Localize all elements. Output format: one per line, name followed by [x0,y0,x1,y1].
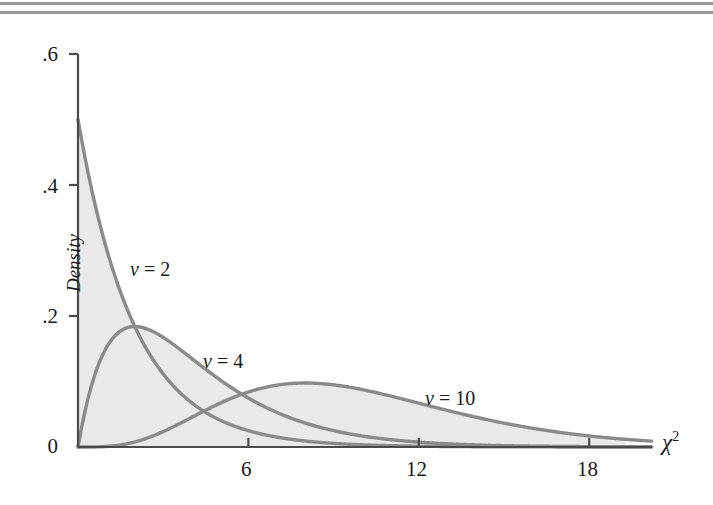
x-tick-label-12: 12 [406,457,427,482]
figure-page: Density χ2 0 .2 .4 .6 6 12 18 v = 2 v = … [0,0,713,505]
y-axis-label: Density [63,203,85,323]
chi-square-density-chart: Density χ2 0 .2 .4 .6 6 12 18 v = 2 v = … [0,20,713,505]
y-tick-label-0: 0 [18,434,58,459]
shaded-region [78,120,652,448]
chart-plot-area [0,20,713,505]
x-axis-label-exponent: 2 [672,429,679,444]
y-tick-label-0.2: .2 [18,304,58,329]
shaded-area-group [78,120,652,448]
y-tick-label-0.4: .4 [18,174,58,199]
curve-annotation-v10: v = 10 [425,387,475,410]
curve-annotation-v2: v = 2 [130,258,170,281]
x-axis-label: χ2 [662,429,679,456]
x-axis-label-base: χ [662,430,672,455]
x-tick-label-6: 6 [241,457,252,482]
y-tick-label-0.6: .6 [18,42,58,67]
bottom-rule-line [0,11,713,14]
top-rule-line [0,2,713,5]
curve-annotation-v4: v = 4 [203,350,243,373]
x-tick-label-18: 18 [577,457,598,482]
